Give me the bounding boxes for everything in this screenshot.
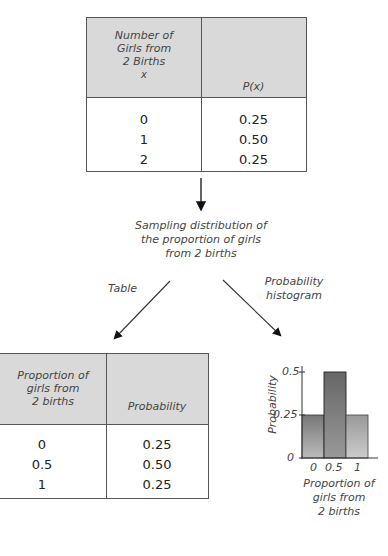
xtick-label-1: 1 xyxy=(354,461,361,474)
ytick-label-0: 0 xyxy=(287,451,294,464)
y-axis-label: Probability xyxy=(266,375,279,435)
bar-0 xyxy=(302,415,324,458)
xtick-label-05: 0.5 xyxy=(325,461,343,474)
x-axis-label: Proportion of girls from 2 births xyxy=(294,477,384,519)
xlabel-line: Proportion of xyxy=(294,477,384,491)
xtick-label-0: 0 xyxy=(310,461,317,474)
bar-1 xyxy=(346,415,368,458)
xlabel-line: 2 births xyxy=(294,505,384,519)
bar-0.5 xyxy=(324,372,346,458)
xlabel-line: girls from xyxy=(294,491,384,505)
ytick-label-05: 0.5 xyxy=(282,365,300,378)
